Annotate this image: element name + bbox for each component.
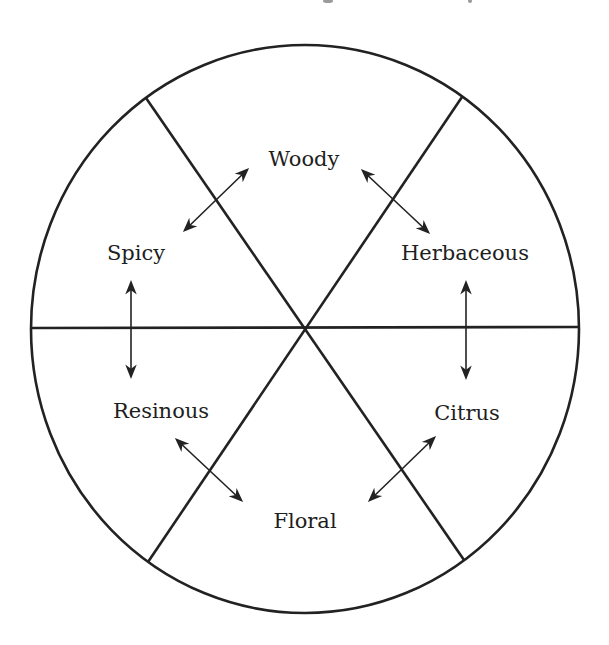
arrow-spicy-woody [185,170,247,230]
label-herbaceous: Herbaceous [401,241,529,265]
arrow-citrus-floral [370,438,434,500]
arrow-woody-herbaceous [363,171,428,232]
label-resinous: Resinous [113,399,209,423]
cropped-title-fragment [323,0,472,3]
fragrance-wheel-diagram: Woody Herbaceous Citrus Floral Resinous … [0,0,609,645]
arrow-floral-resinous [177,440,241,500]
label-floral: Floral [273,509,336,533]
label-woody: Woody [269,147,340,171]
label-spicy: Spicy [107,241,165,265]
label-citrus: Citrus [434,401,500,425]
